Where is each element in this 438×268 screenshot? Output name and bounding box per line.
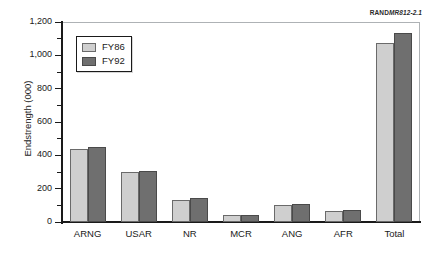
rand-credit-line: RANDMR812-2.1	[370, 9, 422, 16]
bar-fy86-mcr	[223, 215, 241, 222]
y-axis-tick	[55, 88, 61, 89]
y-axis-tick-label: 200	[37, 184, 52, 193]
y-axis-tick-label: 1,000	[29, 50, 52, 59]
legend-swatch-fy92	[82, 57, 96, 66]
bar-fy92-arng	[88, 147, 106, 222]
y-axis-tick-label: 1,200	[29, 17, 52, 26]
legend-swatch-fy86	[82, 43, 96, 52]
bar-fy92-usar	[139, 171, 157, 222]
bar-group	[274, 22, 310, 222]
y-axis-tick	[55, 188, 61, 189]
bar-group	[172, 22, 208, 222]
bar-fy92-total	[394, 33, 412, 222]
y-axis-minor-tick	[57, 105, 61, 106]
y-axis-tick	[55, 22, 61, 23]
rand-report-number: MR812-2.1	[389, 9, 422, 16]
y-axis-tick-label: 0	[47, 217, 52, 226]
y-axis-title: Endstrength (000)	[22, 39, 33, 199]
y-axis-minor-tick	[57, 205, 61, 206]
y-axis-tick-label: 400	[37, 150, 52, 159]
bar-fy86-usar	[121, 172, 139, 222]
y-axis-tick	[55, 55, 61, 56]
y-axis-minor-tick	[57, 72, 61, 73]
y-axis-tick	[55, 155, 61, 156]
y-axis-tick-label: 800	[37, 84, 52, 93]
bar-group	[223, 22, 259, 222]
bar-fy86-nr	[172, 200, 190, 222]
legend: FY86 FY92	[76, 36, 132, 72]
y-axis-tick	[55, 222, 61, 223]
y-axis-minor-tick	[57, 138, 61, 139]
y-axis-minor-tick	[57, 38, 61, 39]
legend-item-fy86: FY86	[82, 41, 125, 53]
bar-fy86-total	[376, 43, 394, 222]
bar-fy86-afr	[325, 211, 343, 222]
legend-label-fy92: FY92	[102, 56, 125, 66]
bar-fy86-arng	[70, 149, 88, 222]
y-axis-minor-tick	[57, 172, 61, 173]
bar-fy86-ang	[274, 205, 292, 222]
y-axis-tick	[55, 122, 61, 123]
y-axis-tick-label: 600	[37, 117, 52, 126]
bar-fy92-afr	[343, 210, 361, 222]
bar-fy92-mcr	[241, 215, 259, 223]
legend-item-fy92: FY92	[82, 55, 125, 67]
figure-bar-chart: RANDMR812-2.1 Endstrength (000) 02004006…	[0, 0, 438, 268]
bar-group	[325, 22, 361, 222]
bar-fy92-ang	[292, 204, 310, 222]
bar-fy92-nr	[190, 198, 208, 222]
bar-group	[376, 22, 412, 222]
rand-logo-text: RAND	[370, 9, 389, 16]
legend-label-fy86: FY86	[102, 42, 125, 52]
x-axis-label-total: Total	[359, 228, 429, 239]
